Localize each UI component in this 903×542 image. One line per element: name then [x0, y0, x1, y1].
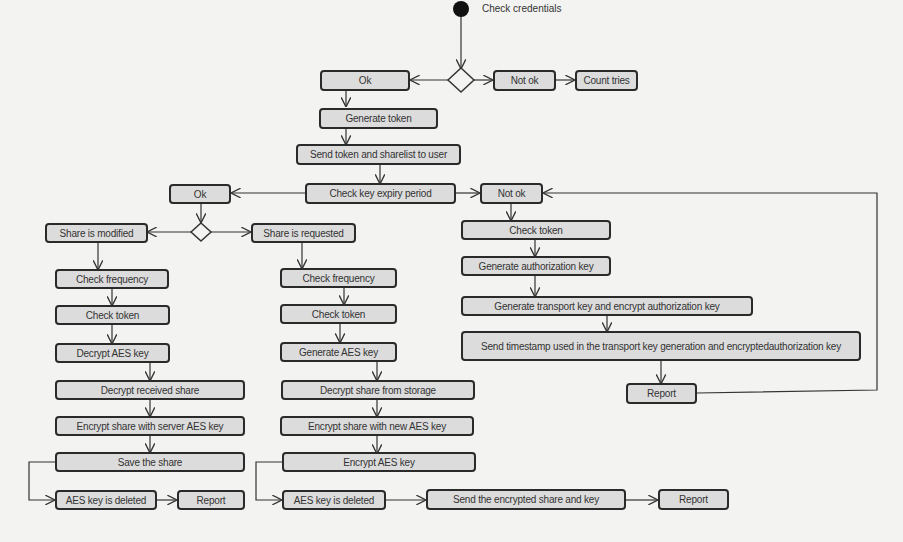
node-mid-encrypt-aes: Encrypt AES key: [282, 452, 476, 472]
node-mid-generate-aes: Generate AES key: [280, 342, 397, 362]
node-not-ok-credentials: Not ok: [493, 70, 556, 91]
node-share-modified: Share is modified: [45, 223, 148, 243]
node-left-check-token: Check token: [55, 305, 170, 325]
node-right-generate-auth: Generate authorization key: [461, 256, 611, 276]
node-left-report: Report: [177, 490, 245, 510]
node-generate-token: Generate token: [319, 108, 438, 129]
node-ok-credentials: Ok: [320, 70, 410, 91]
node-right-check-token: Check token: [461, 220, 611, 240]
node-mid-check-token: Check token: [280, 304, 397, 324]
node-left-encrypt-server: Encrypt share with server AES key: [55, 416, 245, 436]
node-not-ok-expiry: Not ok: [480, 183, 543, 204]
node-right-generate-transport: Generate transport key and encrypt autho…: [461, 296, 753, 316]
node-mid-decrypt-storage: Decrypt share from storage: [281, 380, 475, 400]
node-share-requested: Share is requested: [251, 223, 356, 243]
node-send-token: Send token and sharelist to user: [296, 144, 461, 165]
start-node: [453, 1, 469, 17]
node-left-decrypt-aes: Decrypt AES key: [55, 343, 170, 363]
node-left-check-frequency: Check frequency: [55, 269, 169, 289]
node-right-report: Report: [626, 383, 697, 404]
decision-diamond-share: [191, 223, 211, 241]
start-label: Check credentials: [482, 3, 561, 14]
node-left-save-share: Save the share: [55, 452, 245, 472]
node-right-send-timestamp: Send timestamp used in the transport key…: [461, 331, 861, 361]
activity-diagram: Check credentials Ok Not ok Count tries …: [0, 0, 903, 542]
node-count-tries: Count tries: [575, 70, 638, 91]
node-left-aes-deleted: AES key is deleted: [55, 490, 157, 510]
node-mid-aes-deleted: AES key is deleted: [282, 490, 386, 510]
node-mid-encrypt-new: Encrypt share with new AES key: [280, 416, 474, 436]
decision-diamond-credentials: [448, 68, 474, 92]
node-mid-check-frequency: Check frequency: [280, 268, 397, 288]
node-check-expiry: Check key expiry period: [305, 183, 456, 204]
node-mid-report: Report: [658, 489, 729, 510]
node-left-decrypt-received: Decrypt received share: [55, 380, 245, 400]
node-ok-expiry: Ok: [169, 184, 231, 204]
node-mid-send-encrypted: Send the encrypted share and key: [426, 489, 626, 510]
